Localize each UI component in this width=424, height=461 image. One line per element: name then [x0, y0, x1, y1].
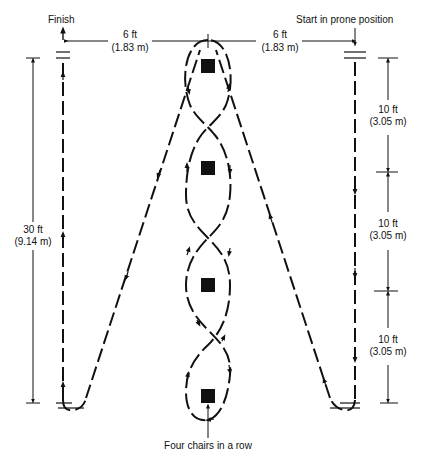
finish-label: Finish: [48, 14, 75, 26]
left-return-path: [63, 50, 200, 410]
weave-path: [185, 40, 231, 420]
left-horizontal-m: (1.83 m): [110, 42, 150, 54]
right-start-path: [216, 50, 355, 410]
total-length-m: (9.14 m): [12, 236, 54, 248]
segment-1-ft: 10 ft: [366, 104, 410, 116]
segment-3-ft: 10 ft: [366, 334, 410, 346]
chair-3: [201, 278, 215, 292]
chair-4: [201, 389, 215, 403]
agility-course-diagram: [0, 0, 424, 461]
chairs-label: Four chairs in a row: [158, 440, 258, 452]
segment-2-ft: 10 ft: [366, 218, 410, 230]
gate-marks: [56, 52, 366, 408]
start-label: Start in prone position: [296, 14, 393, 26]
right-horizontal-ft: 6 ft: [260, 29, 300, 41]
segment-3-m: (3.05 m): [366, 346, 410, 358]
left-horizontal-ft: 6 ft: [110, 29, 150, 41]
chair-1: [201, 59, 215, 73]
segment-1-m: (3.05 m): [366, 116, 410, 128]
total-length-ft: 30 ft: [12, 224, 54, 236]
chair-2: [201, 161, 215, 175]
right-horizontal-m: (1.83 m): [260, 42, 300, 54]
chairs: [201, 59, 215, 403]
segment-2-m: (3.05 m): [366, 230, 410, 242]
